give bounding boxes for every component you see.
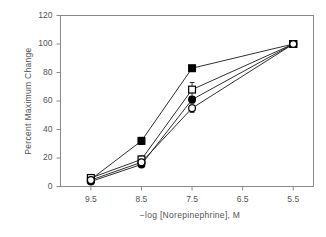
y-tick-label: 40 xyxy=(27,124,53,134)
x-tick-label: 5.5 xyxy=(278,194,308,204)
chart-figure: Percent Maximum Change −log [Norepinephr… xyxy=(0,0,326,237)
y-axis-ticks xyxy=(57,16,61,187)
data-point-filled-square xyxy=(189,65,196,72)
axis-frame xyxy=(61,16,314,187)
x-tick-label: 7.5 xyxy=(177,194,207,204)
x-axis-title: −log [Norepinephrine], M xyxy=(110,210,270,220)
x-tick-label: 6.5 xyxy=(228,194,258,204)
y-tick-label: 80 xyxy=(27,67,53,77)
x-tick-label: 8.5 xyxy=(126,194,156,204)
y-tick-label: 120 xyxy=(27,10,53,20)
y-tick-label: 0 xyxy=(27,181,53,191)
data-point-open-circle xyxy=(87,177,94,184)
y-tick-label: 20 xyxy=(27,152,53,162)
data-point-open-circle xyxy=(138,159,145,166)
chart-plot-area xyxy=(0,0,326,237)
x-axis-ticks xyxy=(91,187,293,191)
y-tick-label: 60 xyxy=(27,95,53,105)
data-point-open-circle xyxy=(189,105,196,112)
data-point-open-circle xyxy=(290,41,297,48)
error-bars xyxy=(88,42,295,184)
y-tick-label: 100 xyxy=(27,38,53,48)
data-point-filled-circle xyxy=(189,96,196,103)
data-point-filled-square xyxy=(138,138,145,145)
data-point-open-square xyxy=(189,86,196,93)
x-tick-label: 9.5 xyxy=(76,194,106,204)
